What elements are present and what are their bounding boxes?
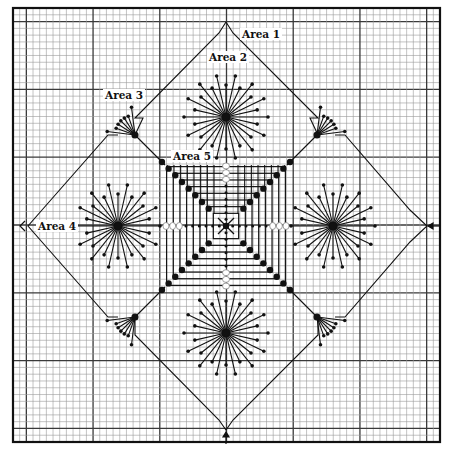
outer-edge-top-left xyxy=(135,22,226,135)
label-area-3: Area 3 xyxy=(103,89,145,101)
star-top xyxy=(182,74,270,159)
star-left xyxy=(74,183,162,268)
label-area-4: Area 4 xyxy=(36,220,78,232)
fan-top-right xyxy=(314,105,347,138)
label-area-1: Area 1 xyxy=(240,28,282,40)
star-right xyxy=(289,183,377,268)
label-area-2: Area 2 xyxy=(207,51,249,63)
star-bottom xyxy=(182,290,270,375)
label-area-5: Area 5 xyxy=(171,150,213,162)
fan-bottom-right xyxy=(314,314,347,347)
arrow-right-icon xyxy=(428,223,440,229)
stitch-chart: Area 1Area 2Area 3Area 4Area 5 xyxy=(0,0,452,452)
arrow-left-icon xyxy=(20,221,25,231)
